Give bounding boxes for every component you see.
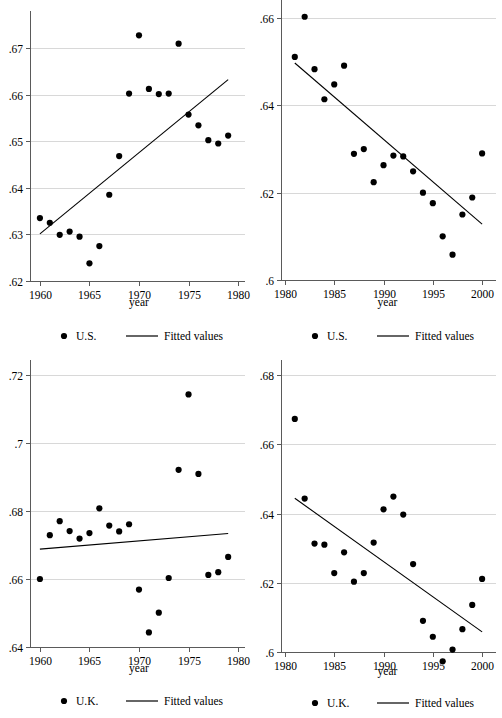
data-point [479,576,485,582]
y-axis: .64.66.68.7.72 [9,360,31,654]
data-point [410,561,416,567]
y-tick-label: .64 [260,100,275,112]
chart-panel-bottom-right: .6.62.64.66.6819801985199019952000yearU.… [251,360,502,718]
x-tick-label: 1960 [29,655,52,667]
data-point [166,575,172,581]
fitted-values-line [40,533,228,549]
y-tick-label: .68 [9,506,24,518]
scatter-series-UK [292,416,486,665]
gridlines [281,19,496,281]
fitted-values-line [295,63,482,224]
fitted-values-line [40,80,228,234]
x-tick-label: 1985 [323,288,346,300]
data-point [96,505,102,511]
data-point [225,132,231,138]
data-point [195,122,201,128]
data-point [292,416,298,422]
y-tick-label: .65 [9,136,24,148]
y-tick-label: .72 [9,370,24,382]
gridlines [281,376,496,653]
data-point [146,629,152,635]
data-point [76,234,82,240]
x-tick-label: 1975 [178,289,201,301]
legend-label-series: U.K. [76,695,98,707]
y-tick-label: .67 [9,43,24,55]
data-point [166,91,172,97]
data-point [449,252,455,258]
y-tick-label: .7 [14,438,23,450]
x-tick-label: 1975 [178,655,201,667]
legend-label-series: U.K. [327,697,349,709]
data-point [331,81,337,87]
scatter-series-US [37,32,231,266]
data-point [361,570,367,576]
x-tick-label: 1980 [274,660,297,672]
data-point [440,233,446,239]
data-point [47,532,53,538]
data-point [76,535,82,541]
y-tick-label: .66 [260,439,275,451]
x-tick-label: 1980 [227,289,250,301]
y-tick-label: .6 [265,275,274,287]
data-point [86,530,92,536]
data-point [469,194,475,200]
data-point [390,152,396,158]
legend-label-fitted: Fitted values [164,330,224,342]
legend: U.S.Fitted values [61,330,224,342]
chart-panel-bottom-left: .64.66.68.7.7219601965197019751980yearU.… [0,360,251,718]
data-point [430,200,436,206]
data-point [341,549,347,555]
data-point [126,521,132,527]
data-point [176,467,182,473]
data-point [116,528,122,534]
y-tick-label: .64 [9,642,24,654]
x-tick-label: 1985 [323,660,346,672]
y-tick-label: .68 [260,370,275,382]
legend: U.K.Fitted values [61,695,224,707]
legend-marker-dot [312,333,318,339]
chart-panel-top-left: .62.63.64.65.66.6719601965197019751980ye… [0,0,251,360]
data-point [351,151,357,157]
data-point [96,243,102,249]
x-tick-label: 1965 [78,289,101,301]
data-point [430,634,436,640]
data-point [321,96,327,102]
y-tick-label: .64 [9,183,24,195]
data-point [205,572,211,578]
data-point [361,146,367,152]
gridlines [30,49,245,282]
data-point [47,220,53,226]
data-point [185,391,191,397]
fitted-values-line [295,498,482,632]
data-point [302,14,308,20]
data-point [57,518,63,524]
data-point [371,179,377,185]
data-point [106,192,112,198]
data-point [321,542,327,548]
x-axis-title: year [129,296,149,309]
data-point [479,150,485,156]
data-point [341,63,347,69]
y-tick-label: .66 [9,90,24,102]
data-point [156,610,162,616]
plot-area-2: .64.66.68.7.7219601965197019751980yearU.… [0,360,251,718]
y-tick-label: .64 [260,509,275,521]
x-tick-label: 2000 [471,288,494,300]
data-point [195,471,201,477]
legend-label-fitted: Fitted values [415,330,475,342]
data-point [302,496,308,502]
legend-label-series: U.S. [327,330,348,342]
data-point [311,541,317,547]
scatter-series-US [292,14,486,258]
gridlines [30,376,245,648]
legend-marker-dot [312,700,318,706]
data-point [215,140,221,146]
chart-panel-top-right: .6.62.64.6619801985199019952000yearU.S.F… [251,0,502,360]
data-point [86,260,92,266]
data-point [136,586,142,592]
x-tick-label: 1980 [274,288,297,300]
figure-panel-grid: .62.63.64.65.66.6719601965197019751980ye… [0,0,502,718]
data-point [136,32,142,38]
data-point [331,570,337,576]
y-tick-label: .63 [9,229,24,241]
